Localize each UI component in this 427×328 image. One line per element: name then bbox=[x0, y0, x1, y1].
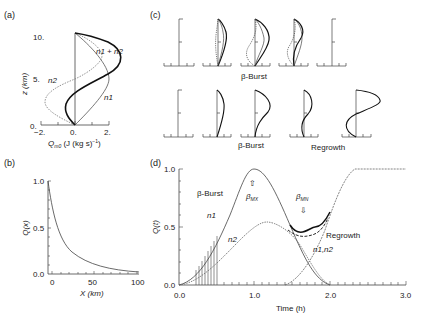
curve-total bbox=[290, 212, 330, 232]
hatch-bars bbox=[196, 236, 217, 285]
mini-plot-top-5 bbox=[317, 19, 346, 66]
mini-plot-top-3 bbox=[241, 19, 270, 66]
curve-qx bbox=[48, 181, 139, 272]
svg-text:n1 + n2: n1 + n2 bbox=[96, 47, 123, 56]
svg-text:βMN: βMN bbox=[295, 192, 309, 202]
svg-text:3.0: 3.0 bbox=[400, 291, 412, 300]
svg-text:β-Burst: β-Burst bbox=[197, 189, 224, 198]
mini-plot-bottom-2 bbox=[203, 90, 231, 137]
svg-text:1.0: 1.0 bbox=[249, 291, 261, 300]
svg-text:n1,n2: n1,n2 bbox=[313, 245, 334, 254]
svg-text:0.5: 0.5 bbox=[33, 224, 45, 233]
svg-text:⇩: ⇩ bbox=[300, 206, 307, 215]
svg-text:Time (h): Time (h) bbox=[276, 304, 306, 313]
svg-text:βMX: βMX bbox=[245, 192, 259, 202]
mini-plot-top-4 bbox=[279, 19, 308, 66]
svg-text:2.0: 2.0 bbox=[325, 291, 337, 300]
mini-plot-bottom-1 bbox=[164, 90, 193, 137]
svg-text:n2: n2 bbox=[48, 76, 57, 85]
svg-text:10.: 10. bbox=[33, 33, 44, 42]
svg-text:Q(t): Q(t) bbox=[151, 220, 160, 234]
svg-text:100: 100 bbox=[131, 278, 145, 287]
panel-c: (c) bbox=[150, 10, 380, 152]
svg-text:β-Burst: β-Burst bbox=[238, 141, 265, 150]
svg-text:5.: 5. bbox=[33, 75, 40, 84]
panel-a-label: (a) bbox=[4, 10, 15, 20]
panel-b-label: (b) bbox=[4, 158, 15, 168]
svg-text:n2: n2 bbox=[228, 235, 237, 244]
svg-text:0.5: 0.5 bbox=[164, 223, 176, 232]
mini-plot-bottom-4 bbox=[290, 90, 318, 137]
svg-text:Regrowth: Regrowth bbox=[311, 143, 345, 152]
curve-n2 bbox=[179, 222, 330, 285]
svg-text:0.0: 0.0 bbox=[33, 270, 45, 279]
svg-text:−2.: −2. bbox=[34, 128, 45, 137]
curve-regrowth bbox=[285, 169, 406, 285]
mini-plot-top-1 bbox=[164, 19, 194, 66]
panel-b: (b) 1.0 0.5 0.0 0 50 100 Q(x) X (km) bbox=[4, 158, 145, 298]
svg-text:Regrowth: Regrowth bbox=[326, 231, 360, 240]
figure: (a) 10. 5. 0. −2. 0. 2. z (km) Qm0 (J (k… bbox=[0, 0, 427, 328]
svg-text:0.: 0. bbox=[70, 128, 77, 137]
svg-text:n1: n1 bbox=[207, 211, 216, 220]
mini-plot-top-2 bbox=[203, 19, 231, 66]
svg-text:1.0: 1.0 bbox=[164, 165, 176, 174]
curve-total-dashed bbox=[288, 218, 328, 236]
panel-d: (d) 1.0 0.5 0.0 0.0 1.0 2.0 3.0 Q(t) Tim… bbox=[150, 158, 412, 313]
svg-text:n1: n1 bbox=[104, 93, 113, 102]
svg-text:2.: 2. bbox=[104, 128, 111, 137]
svg-text:0.0: 0.0 bbox=[174, 291, 186, 300]
svg-text:⇧: ⇧ bbox=[249, 179, 256, 188]
svg-text:Q(x): Q(x) bbox=[21, 220, 30, 236]
panel-a: (a) 10. 5. 0. −2. 0. 2. z (km) Qm0 (J (k… bbox=[4, 10, 123, 149]
panel-d-label: (d) bbox=[150, 158, 161, 168]
panel-c-label: (c) bbox=[150, 10, 161, 20]
svg-text:0: 0 bbox=[50, 278, 55, 287]
svg-text:X (km): X (km) bbox=[79, 289, 104, 298]
panel-a-xlabel: Qm0 (J (kg s)−1) bbox=[48, 138, 101, 149]
panel-a-ylabel: z (km) bbox=[20, 73, 29, 97]
svg-text:50: 50 bbox=[88, 278, 97, 287]
svg-text:0.0: 0.0 bbox=[164, 281, 176, 290]
mini-plot-bottom-3 bbox=[241, 90, 270, 137]
mini-plot-bottom-5 bbox=[342, 90, 380, 137]
svg-text:1.0: 1.0 bbox=[33, 177, 45, 186]
svg-text:β-Burst: β-Burst bbox=[241, 72, 268, 81]
